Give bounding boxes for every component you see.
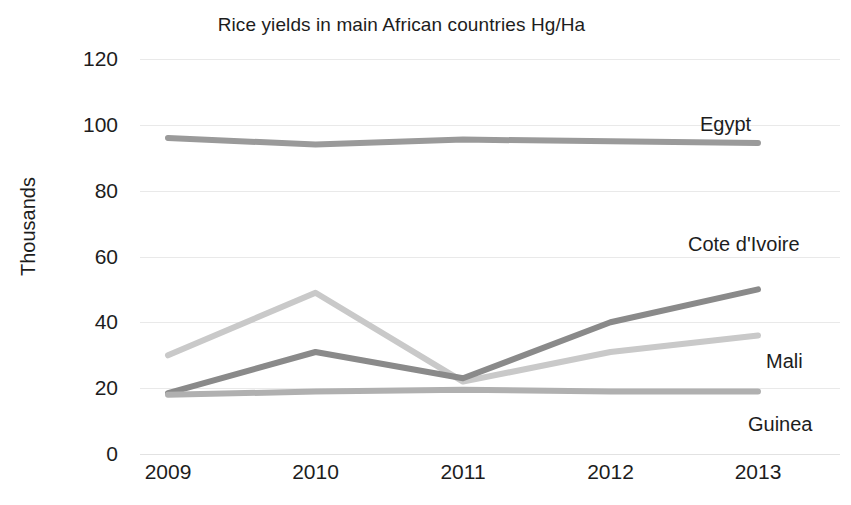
series-line-mali [168, 289, 758, 393]
series-label-mali: Mali [766, 350, 803, 373]
series-line-egypt [168, 138, 758, 145]
chart-container: Rice yields in main African countries Hg… [0, 0, 851, 505]
series-label-cote-d-ivoire: Cote d'Ivoire [688, 233, 800, 256]
series-line-guinea [168, 390, 758, 395]
series-label-egypt: Egypt [700, 113, 751, 136]
series-label-guinea: Guinea [748, 413, 813, 436]
